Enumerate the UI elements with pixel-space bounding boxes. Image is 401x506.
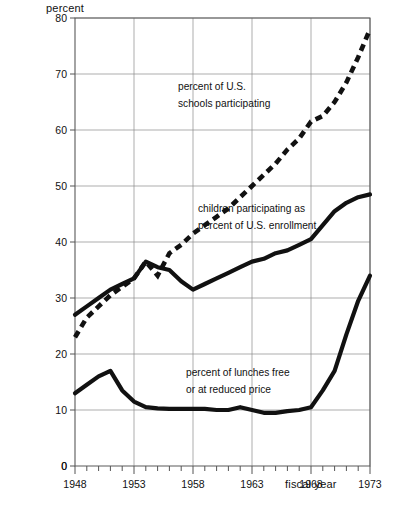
- y-tick-label: 20: [55, 348, 67, 360]
- chart-figure: percent fiscal year 01020304050607080 19…: [0, 0, 401, 506]
- x-tick-label: 1968: [299, 478, 323, 490]
- annot-schools-line2: schools participating: [178, 98, 271, 109]
- x-tick-label: 1958: [181, 478, 205, 490]
- y-tick-label: 70: [55, 68, 67, 80]
- series-line-0: [75, 29, 370, 337]
- y-tick-label: 50: [55, 180, 67, 192]
- y-tick-label-zero: 0: [61, 460, 67, 472]
- annot-freelunch-line1: percent of lunches free: [186, 367, 290, 378]
- chart-canvas: 01020304050607080 1948195319581963196819…: [0, 0, 401, 506]
- series-annotations: percent of U.S.schools participatingchil…: [178, 81, 317, 395]
- annot-schools-line1: percent of U.S.: [178, 81, 246, 92]
- y-tick-label: 30: [55, 292, 67, 304]
- y-axis-ticks: 01020304050607080: [55, 12, 75, 472]
- x-tick-label: 1973: [358, 478, 382, 490]
- y-tick-label: 60: [55, 124, 67, 136]
- x-tick-label: 1948: [63, 478, 87, 490]
- x-tick-label: 1963: [240, 478, 264, 490]
- annot-children-line2: percent of U.S. enrollment: [198, 220, 317, 231]
- y-tick-label: 40: [55, 236, 67, 248]
- y-tick-label: 10: [55, 404, 67, 416]
- annot-freelunch-line2: or at reduced price: [186, 384, 271, 395]
- x-tick-label: 1953: [122, 478, 146, 490]
- x-axis-ticks: 1948195319581963196819730: [61, 460, 382, 490]
- y-tick-label: 80: [55, 12, 67, 24]
- annot-children-line1: children participating as: [198, 203, 305, 214]
